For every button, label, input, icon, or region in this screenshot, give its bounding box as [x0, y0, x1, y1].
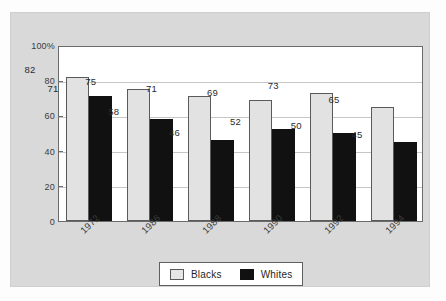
bar-whites-1992 — [333, 133, 356, 221]
bar-group — [188, 45, 234, 221]
y-axis-tick-label: 40 — [15, 147, 55, 157]
chart-panel: 020406080100% Blacks Whites 827119727558… — [10, 12, 430, 287]
bar-value-label: 65 — [322, 94, 346, 105]
bar-group — [249, 45, 295, 221]
legend-label-whites: Whites — [261, 269, 293, 280]
bar-value-label: 46 — [163, 127, 187, 138]
bar-value-label: 50 — [284, 120, 308, 131]
chart-figure: 020406080100% Blacks Whites 827119727558… — [0, 0, 446, 301]
bar-blacks-1972 — [66, 77, 89, 221]
bar-whites-1988 — [211, 140, 234, 221]
bar-whites-1994 — [394, 142, 417, 221]
bar-value-label: 71 — [140, 83, 164, 94]
legend-item-blacks: Blacks — [170, 269, 222, 280]
y-axis-tick-mark — [58, 186, 63, 187]
light-square-swatch-icon — [170, 269, 184, 280]
bar-value-label: 45 — [345, 129, 369, 140]
black-square-swatch-icon — [240, 269, 254, 280]
bar-value-label: 52 — [223, 116, 247, 127]
bar-value-label: 82 — [18, 64, 42, 75]
bar-blacks-1994 — [371, 107, 394, 221]
y-axis-tick-label: 60 — [15, 111, 55, 121]
y-axis-tick-label: 0 — [15, 217, 55, 227]
gridline — [59, 152, 422, 153]
y-axis-tick-label: 20 — [15, 182, 55, 192]
bar-group — [371, 45, 417, 221]
gridline — [59, 82, 422, 83]
bar-value-label: 71 — [41, 83, 65, 94]
y-axis-tick-mark — [58, 151, 63, 152]
bar-blacks-1992 — [310, 93, 333, 221]
bar-value-label: 69 — [200, 87, 224, 98]
bar-value-label: 58 — [102, 106, 126, 117]
legend-label-blacks: Blacks — [191, 269, 222, 280]
gridline — [59, 187, 422, 188]
bar-value-label: 75 — [79, 76, 103, 87]
legend-item-whites: Whites — [240, 269, 293, 280]
bar-blacks-1990 — [249, 100, 272, 221]
y-axis-tick-mark — [58, 81, 63, 82]
bar-blacks-1986 — [127, 89, 150, 221]
chart-legend: Blacks Whites — [159, 262, 303, 286]
y-axis-tick-label: 100% — [15, 41, 55, 51]
y-axis-tick-mark — [58, 116, 63, 117]
bar-value-label: 73 — [261, 80, 285, 91]
bar-group — [66, 45, 112, 221]
bar-blacks-1988 — [188, 96, 211, 221]
bar-whites-1990 — [272, 129, 295, 221]
